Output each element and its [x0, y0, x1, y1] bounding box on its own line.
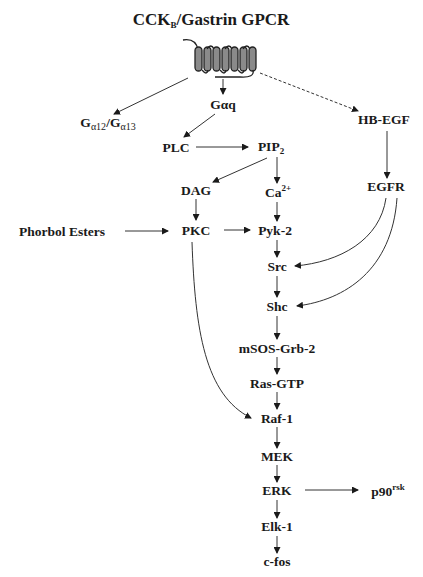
node-erk: ERK	[262, 484, 291, 498]
signaling-pathway-diagram: CCKB/Gastrin GPCR Gαq Gα12/Gα13 HB-EGF P…	[0, 0, 423, 577]
node-ras-gtp: Ras-GTP	[250, 377, 304, 391]
node-mek: MEK	[261, 450, 293, 464]
node-src: Src	[267, 260, 286, 274]
node-dag: DAG	[181, 184, 211, 198]
gpcr-title: CCKB/Gastrin GPCR	[133, 11, 290, 30]
node-pkc: PKC	[182, 224, 211, 238]
node-p90rsk: p90rsk	[371, 483, 405, 499]
node-galpha-q: Gαq	[210, 98, 236, 112]
node-pip2: PIP2	[258, 140, 284, 156]
node-raf1: Raf-1	[261, 412, 293, 426]
node-egfr: EGFR	[367, 180, 405, 194]
node-msos-grb2: mSOS-Grb-2	[239, 342, 316, 356]
node-elk1: Elk-1	[261, 520, 293, 534]
node-phorbol-esters: Phorbol Esters	[19, 225, 105, 239]
pathway-arrows	[0, 0, 423, 577]
node-shc: Shc	[266, 300, 287, 314]
gpcr-receptor-icon	[183, 40, 256, 77]
node-galpha12-13: Gα12/Gα13	[80, 116, 135, 132]
node-calcium: Ca2+	[265, 184, 291, 200]
node-hb-egf: HB-EGF	[358, 113, 410, 127]
node-plc: PLC	[163, 141, 190, 155]
node-pyk2: Pyk-2	[258, 224, 292, 238]
node-c-fos: c-fos	[264, 555, 291, 569]
